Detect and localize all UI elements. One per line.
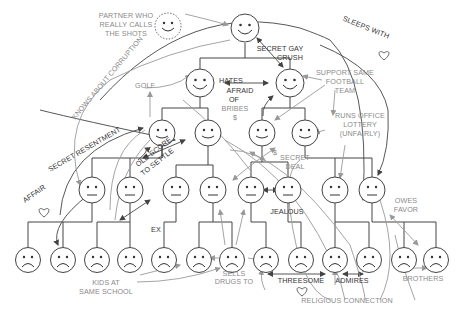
level3-face-5 bbox=[238, 177, 264, 203]
level3-face-1 bbox=[79, 177, 105, 203]
support-team-label-3: TEAM bbox=[335, 86, 355, 95]
level4-face-8 bbox=[254, 248, 279, 273]
level4-face-1 bbox=[16, 248, 41, 273]
level3-face-6 bbox=[275, 177, 301, 203]
support-team-label-2: FOOTBALL bbox=[326, 77, 364, 86]
level3-face-7 bbox=[322, 177, 348, 203]
office-lottery-label-1: RUNS OFFICE bbox=[335, 111, 385, 120]
level4-face-4 bbox=[118, 248, 143, 273]
ex-label: EX bbox=[151, 225, 161, 234]
jealous-label: JEALOUS bbox=[270, 207, 304, 216]
level4-face-2 bbox=[51, 248, 76, 273]
bribes-label-2: $ bbox=[233, 113, 237, 122]
support-team-label-1: SUPPORT SAME bbox=[316, 68, 374, 77]
brothers-label: BROTHERS bbox=[403, 274, 444, 283]
level2-face-2 bbox=[195, 120, 221, 146]
level3-face-8 bbox=[359, 177, 385, 203]
sells-drugs-label-2: DRUGS TO bbox=[215, 277, 254, 286]
secret-gay-crush-1: SECRET GAY bbox=[257, 44, 304, 53]
admires-label: ADMIRES bbox=[335, 276, 369, 285]
dollar-label: $ bbox=[273, 148, 277, 157]
level4-face-9 bbox=[289, 248, 314, 273]
kids-school-label-2: SAME SCHOOL bbox=[79, 287, 133, 296]
level3-face-4 bbox=[200, 177, 226, 203]
owes-favor-label-1: OWES bbox=[395, 196, 417, 205]
secret-deal-label-1: SECRET bbox=[280, 153, 310, 162]
afraid-of-label-1: AFRAID bbox=[227, 86, 254, 95]
heart-icon bbox=[297, 288, 307, 296]
heart-icon bbox=[379, 52, 389, 60]
level3-face-3 bbox=[163, 177, 189, 203]
threesome-label: THREESOME bbox=[278, 276, 325, 285]
secret-deal-label-2: DEAL bbox=[285, 162, 304, 171]
level2-face-4 bbox=[292, 120, 318, 146]
level2-face-3 bbox=[249, 120, 275, 146]
afraid-of-label-2: OF bbox=[229, 95, 240, 104]
golf-label: GOLF bbox=[135, 81, 155, 90]
partner-face bbox=[155, 13, 181, 39]
affair-label: AFFAIR bbox=[21, 182, 47, 204]
religious-connection-label: RELIGIOUS CONNECTION bbox=[301, 296, 392, 305]
level4-face-11 bbox=[357, 248, 382, 273]
partner-label-3: THE SHOTS bbox=[105, 29, 147, 38]
heart-icon bbox=[39, 209, 49, 217]
partner-label-2: REALLY CALLS bbox=[100, 20, 153, 29]
level4-face-12 bbox=[392, 248, 417, 273]
level1-face-left bbox=[186, 69, 214, 97]
knows-about-corruption-label: KNOWS ABOUT CORRUPTION bbox=[70, 34, 145, 121]
partner-label-1: PARTNER WHO bbox=[99, 11, 154, 20]
sleeps-with-label: SLEEPS WITH bbox=[341, 14, 390, 41]
level4-face-6 bbox=[187, 248, 212, 273]
office-lottery-label-2: LOTTERY bbox=[343, 120, 377, 129]
level4-face-3 bbox=[85, 248, 110, 273]
bribes-label-1: BRIBES bbox=[222, 104, 249, 113]
secret-gay-crush-2: CRUSH bbox=[277, 53, 303, 62]
level1-face-right bbox=[276, 69, 304, 97]
kids-school-label-1: KIDS AT bbox=[92, 278, 120, 287]
level4-face-5 bbox=[152, 248, 177, 273]
secret-resentment-label: SECRET RESENTMENT bbox=[47, 125, 123, 174]
boss-face bbox=[231, 14, 259, 42]
org-chart-diagram: PARTNER WHO REALLY CALLS THE SHOTS SECRE… bbox=[0, 0, 465, 321]
hates-label: HATES bbox=[219, 76, 243, 85]
level4-face-13 bbox=[424, 248, 449, 273]
level3-face-2 bbox=[117, 177, 143, 203]
level4-face-10 bbox=[323, 248, 348, 273]
office-lottery-label-3: (UNFAIRLY) bbox=[340, 129, 380, 138]
owes-favor-label-2: FAVOR bbox=[394, 205, 418, 214]
